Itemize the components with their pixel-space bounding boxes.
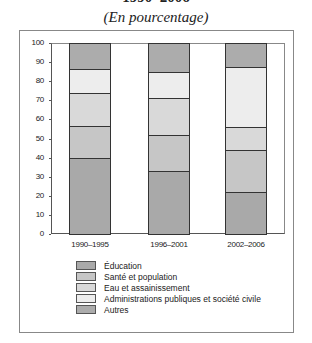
- legend-item: Autres: [76, 304, 261, 315]
- bar-segment: [225, 43, 267, 68]
- legend-item: Eau et assainissement: [76, 282, 261, 293]
- bar-segment: [69, 126, 111, 159]
- bar-segment: [69, 93, 111, 127]
- y-tick-label: 90: [24, 57, 44, 66]
- legend-label: Santé et population: [104, 272, 177, 282]
- legend-label: Eau et assainissement: [104, 283, 190, 293]
- bar-segment: [225, 67, 267, 128]
- y-tick-mark: [49, 158, 51, 159]
- legend-swatch: [76, 294, 96, 303]
- legend: ÉducationSanté et populationEau et assai…: [76, 260, 261, 315]
- x-tick-label: 1996–2001: [134, 240, 204, 249]
- bar-segment: [69, 69, 111, 94]
- legend-item: Éducation: [76, 260, 261, 271]
- chart-subtitle: (En pourcentage): [0, 9, 312, 26]
- y-tick-mark: [49, 139, 51, 140]
- legend-label: Autres: [104, 305, 129, 315]
- y-tick-mark: [49, 81, 51, 82]
- y-tick-mark: [49, 100, 51, 101]
- bar-segment: [69, 43, 111, 70]
- y-tick-mark: [49, 177, 51, 178]
- y-tick-label: 0: [24, 229, 44, 238]
- bar-segment: [148, 43, 190, 73]
- bar-segment: [148, 135, 190, 172]
- legend-label: Administrations publiques et société civ…: [104, 294, 261, 304]
- legend-label: Éducation: [104, 261, 142, 271]
- legend-swatch: [76, 261, 96, 270]
- y-tick-mark: [49, 215, 51, 216]
- bar-segment: [148, 98, 190, 136]
- legend-item: Administrations publiques et société civ…: [76, 293, 261, 304]
- y-tick-mark: [49, 43, 51, 44]
- y-tick-mark: [49, 62, 51, 63]
- bar-segment: [225, 127, 267, 151]
- bar-segment: [225, 150, 267, 193]
- y-tick-label: 60: [24, 114, 44, 123]
- y-tick-label: 30: [24, 172, 44, 181]
- y-tick-mark: [49, 196, 51, 197]
- y-tick-label: 100: [24, 38, 44, 47]
- y-tick-label: 80: [24, 76, 44, 85]
- y-tick-label: 70: [24, 95, 44, 104]
- chart-title: 1990–2006: [0, 0, 312, 6]
- x-tick-label: 2002–2006: [211, 240, 281, 249]
- legend-swatch: [76, 305, 96, 314]
- bar-segment: [225, 192, 267, 235]
- legend-swatch: [76, 283, 96, 292]
- bar-segment: [69, 158, 111, 235]
- legend-swatch: [76, 272, 96, 281]
- y-tick-label: 20: [24, 191, 44, 200]
- y-tick-mark: [49, 234, 51, 235]
- bar-segment: [148, 171, 190, 235]
- x-tick-label: 1990–1995: [55, 240, 125, 249]
- y-tick-label: 40: [24, 153, 44, 162]
- y-tick-label: 50: [24, 134, 44, 143]
- bar-segment: [148, 72, 190, 99]
- y-tick-mark: [49, 119, 51, 120]
- y-tick-label: 10: [24, 210, 44, 219]
- legend-item: Santé et population: [76, 271, 261, 282]
